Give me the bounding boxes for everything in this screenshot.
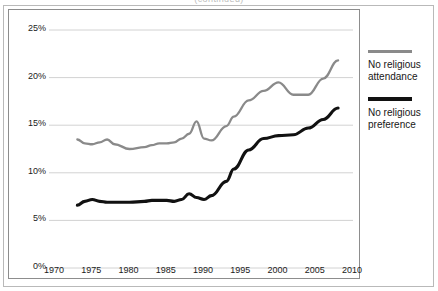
data-series-group xyxy=(77,60,338,205)
y-tick-label: 5% xyxy=(12,214,46,223)
x-tick-label: 1980 xyxy=(109,266,149,275)
x-tick-label: 2005 xyxy=(295,266,335,275)
y-tick-label: 10% xyxy=(12,167,46,176)
legend-label-attendance-line1: No religious xyxy=(368,59,436,71)
gridlines xyxy=(49,30,353,268)
y-tick-label: 25% xyxy=(12,24,46,33)
y-tick-label: 20% xyxy=(12,72,46,81)
line-chart-canvas xyxy=(9,10,359,278)
legend-label-preference: No religious preference xyxy=(368,107,436,131)
legend-item-no-religious-preference: No religious preference xyxy=(368,97,436,131)
series-line-no-religious-attendance xyxy=(77,60,338,149)
legend-swatch-attendance xyxy=(368,50,412,53)
y-tick-label: 15% xyxy=(12,119,46,128)
legend-swatch-preference xyxy=(368,97,412,101)
chart-legend: No religious attendance No religious pre… xyxy=(368,50,436,145)
x-tick-label: 2000 xyxy=(258,266,298,275)
x-tick-label: 1985 xyxy=(146,266,186,275)
x-tick-label: 2010 xyxy=(332,266,372,275)
chart-screenshot: (continued) 0%5%10%15%20%25% 19701975198… xyxy=(0,0,438,291)
legend-label-attendance: No religious attendance xyxy=(368,59,436,83)
series-line-no-religious-preference xyxy=(77,108,338,205)
legend-item-no-religious-attendance: No religious attendance xyxy=(368,50,436,83)
x-tick-label: 1990 xyxy=(183,266,223,275)
legend-label-preference-line1: No religious xyxy=(368,107,436,119)
legend-label-preference-line2: preference xyxy=(368,119,436,131)
plot-area xyxy=(8,9,360,279)
legend-label-attendance-line2: attendance xyxy=(368,71,436,83)
x-tick-label: 1970 xyxy=(34,266,74,275)
x-tick-label: 1995 xyxy=(220,266,260,275)
x-tick-label: 1975 xyxy=(71,266,111,275)
